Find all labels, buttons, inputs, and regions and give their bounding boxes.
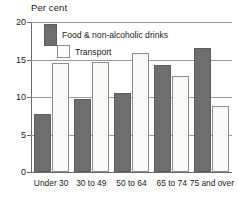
legend-label-0: Food & non-alcoholic drinks [62, 30, 168, 40]
y-tick-label-5: 5 [0, 130, 26, 140]
bar-1-1 [92, 62, 109, 172]
bar-3-0 [154, 65, 171, 172]
bar-2-0 [114, 93, 131, 173]
y-tick-label-10: 10 [0, 92, 26, 102]
bar-4-1 [212, 106, 229, 172]
bar-1-0 [74, 99, 91, 173]
legend-item-1: Transport [57, 45, 111, 58]
x-tick-label-1: 30 to 49 [76, 178, 106, 188]
x-tick-label-4: 75 and over [190, 178, 234, 188]
y-tick-label-20: 20 [0, 17, 26, 27]
x-tick-label-3: 65 to 74 [157, 178, 187, 188]
gridline-0 [31, 172, 232, 173]
legend-item-0: Food & non-alcoholic drinks [44, 24, 168, 46]
legend-swatch-icon-1 [57, 45, 70, 58]
legend-swatch-icon-0 [44, 24, 57, 46]
bar-0-1 [52, 63, 69, 173]
legend-label-1: Transport [75, 47, 111, 57]
chart-title: Per cent [31, 2, 67, 13]
bar-chart: Per cent 05101520 Under 3030 to 4950 to … [0, 0, 238, 197]
bar-3-1 [172, 76, 189, 172]
bar-0-0 [34, 114, 51, 172]
bar-2-1 [132, 53, 149, 172]
y-tick-label-15: 15 [0, 55, 26, 65]
x-tick-label-2: 50 to 64 [116, 178, 146, 188]
bar-group-4 [192, 22, 232, 172]
y-tick-label-0: 0 [0, 167, 26, 177]
bar-4-0 [194, 48, 211, 172]
x-tick-label-0: Under 30 [34, 178, 68, 188]
